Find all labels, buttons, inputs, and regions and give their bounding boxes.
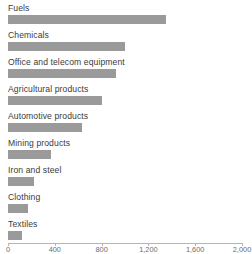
- bar-group: Office and telecom equipment: [0, 57, 242, 84]
- bar-track: [8, 15, 166, 24]
- bar-category-label: Fuels: [8, 3, 30, 14]
- bar-rect[interactable]: [8, 177, 34, 186]
- bar-group: Iron and steel: [0, 165, 242, 192]
- bar-rect[interactable]: [8, 204, 28, 213]
- bar-category-label: Chemicals: [8, 30, 49, 41]
- bar-group: Mining products: [0, 138, 242, 165]
- x-axis-line: [8, 243, 242, 244]
- bar-category-label: Automotive products: [8, 111, 88, 122]
- bar-track: [8, 177, 34, 186]
- bar-track: [8, 69, 116, 78]
- x-axis-tick-label: 800: [95, 246, 107, 254]
- bar-group: Clothing: [0, 192, 242, 219]
- bar-track: [8, 204, 28, 213]
- x-axis-tick-label: 2,000: [233, 246, 252, 254]
- bar-track: [8, 150, 51, 159]
- bar-category-label: Iron and steel: [8, 165, 61, 176]
- bar-category-label: Textiles: [8, 219, 37, 230]
- bar-rect[interactable]: [8, 123, 82, 132]
- x-axis-tick-label: 400: [49, 246, 61, 254]
- bar-category-label: Clothing: [8, 192, 40, 203]
- bar-rect[interactable]: [8, 150, 51, 159]
- bar-rect[interactable]: [8, 231, 22, 240]
- bar-group: Textiles: [0, 219, 242, 246]
- bar-group: Fuels: [0, 3, 242, 30]
- x-axis-tick-label: 0: [6, 246, 10, 254]
- plot-area: Fuels Chemicals Office and telecom equip…: [0, 0, 242, 243]
- bar-track: [8, 123, 82, 132]
- x-axis: 04008001,2001,6002,000: [0, 243, 242, 252]
- bar-track: [8, 231, 22, 240]
- bar-category-label: Agricultural products: [8, 84, 88, 95]
- bar-group: Chemicals: [0, 30, 242, 57]
- bar-rect[interactable]: [8, 42, 125, 51]
- bar-group: Agricultural products: [0, 84, 242, 111]
- bar-track: [8, 42, 125, 51]
- x-axis-tick-label: 1,200: [139, 246, 158, 254]
- bar-rect[interactable]: [8, 96, 102, 105]
- bar-category-label: Office and telecom equipment: [8, 57, 125, 68]
- bar-group: Automotive products: [0, 111, 242, 138]
- bar-rect[interactable]: [8, 69, 116, 78]
- bar-rect[interactable]: [8, 15, 166, 24]
- x-axis-tick-label: 1,600: [186, 246, 205, 254]
- bar-category-label: Mining products: [8, 138, 70, 149]
- bar-track: [8, 96, 102, 105]
